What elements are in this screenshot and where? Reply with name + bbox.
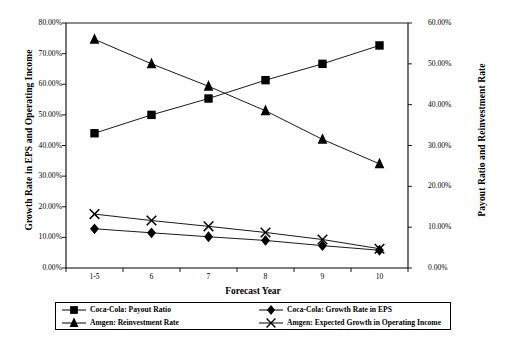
series-line	[95, 45, 380, 133]
chart-legend: Coca-Cola: Payout RatioCoca-Cola: Growth…	[55, 302, 451, 330]
data-point-triangle-marker	[375, 158, 385, 169]
y-axis-right-tick-label: 40.00%	[428, 100, 474, 109]
data-point-square-marker	[318, 60, 326, 68]
x-axis-tick-label: 10	[350, 272, 410, 281]
data-point-triangle-marker	[147, 58, 157, 69]
legend-item-label: Coca-Cola: Payout Ratio	[90, 305, 171, 314]
data-point-triangle-marker	[318, 133, 328, 144]
x-axis-title: Forecast Year	[0, 286, 506, 296]
legend-item[interactable]: Amgen: Expected Growth in Operating Inco…	[253, 317, 450, 329]
data-point-diamond-marker	[204, 231, 213, 242]
y-axis-right-tick-label: 0.00%	[428, 263, 474, 272]
y-axis-left-tick-label: 20.00%	[20, 202, 62, 211]
data-point-diamond-marker	[147, 227, 156, 238]
chart-container: Growth Rate in EPS and Operating Income …	[0, 0, 506, 339]
data-point-square-marker	[90, 129, 98, 137]
legend-item-label: Coca-Cola: Growth Rate in EPS	[287, 305, 392, 314]
y-axis-right-tick-label: 20.00%	[428, 181, 474, 190]
legend-item-label: Amgen: Expected Growth in Operating Inco…	[287, 318, 441, 327]
y-axis-right-tick-label: 10.00%	[428, 222, 474, 231]
y-axis-right-tick-label: 50.00%	[428, 59, 474, 68]
series-line	[95, 229, 380, 250]
data-point-square-marker	[204, 94, 212, 102]
y-axis-left-tick-label: 40.00%	[20, 141, 62, 150]
y-axis-right-tick-label: 60.00%	[428, 18, 474, 27]
legend-item[interactable]: Coca-Cola: Payout Ratio	[56, 304, 253, 316]
x-axis-tick-label: 6	[122, 272, 182, 281]
legend-marker-square-icon	[61, 304, 87, 316]
data-point-diamond-marker	[261, 235, 270, 246]
legend-marker-cross-icon	[258, 317, 284, 329]
series-line	[95, 39, 380, 164]
data-point-triangle-marker	[90, 33, 100, 44]
y-axis-left-tick-label: 30.00%	[20, 171, 62, 180]
y-axis-right-title: Payout Ratio and Reinvestment Rate	[477, 15, 487, 265]
y-axis-left-tick-label: 60.00%	[20, 79, 62, 88]
x-axis-tick-label: 7	[179, 272, 239, 281]
data-point-square-marker	[375, 41, 383, 49]
legend-item[interactable]: Coca-Cola: Growth Rate in EPS	[253, 304, 450, 316]
y-axis-left-tick-label: 10.00%	[20, 232, 62, 241]
y-axis-left-tick-label: 50.00%	[20, 110, 62, 119]
data-point-square-marker	[261, 76, 269, 84]
data-point-diamond-marker	[90, 223, 99, 234]
y-axis-right-tick-label: 30.00%	[428, 141, 474, 150]
x-axis-tick-label: 8	[236, 272, 296, 281]
legend-marker-triangle-icon	[61, 317, 87, 329]
y-axis-left-tick-label: 70.00%	[20, 49, 62, 58]
legend-item-label: Amgen: Reinvestment Rate	[90, 318, 179, 327]
data-point-triangle-marker	[261, 105, 271, 116]
legend-marker-diamond-icon	[258, 304, 284, 316]
x-axis-tick-label: 9	[293, 272, 353, 281]
data-point-square-marker	[147, 111, 155, 119]
y-axis-left-tick-label: 0.00%	[20, 263, 62, 272]
plot-area	[66, 23, 408, 268]
x-axis-tick-label: 1-5	[65, 272, 125, 281]
legend-item[interactable]: Amgen: Reinvestment Rate	[56, 317, 253, 329]
y-axis-left-tick-label: 80.00%	[20, 18, 62, 27]
plot-svg	[66, 23, 408, 268]
